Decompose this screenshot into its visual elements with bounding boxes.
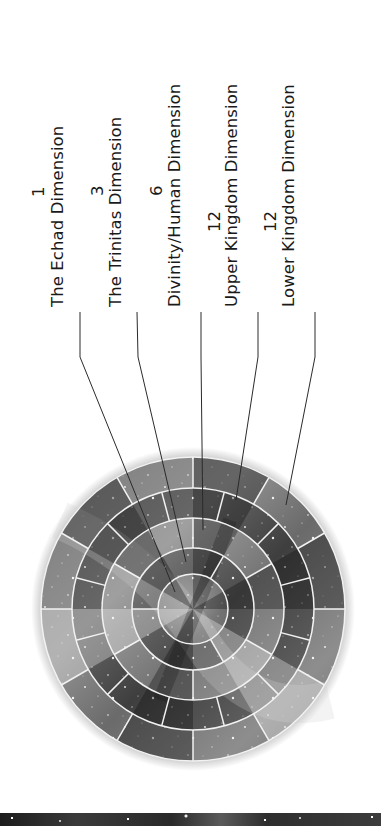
label-count-lower-kingdom: 12 [263,211,280,232]
leader-line-lower-kingdom [286,312,315,505]
label-name-upper-kingdom: Upper Kingdom Dimension [224,84,241,307]
label-name-echad: The Echad Dimension [50,126,67,307]
label-name-divinity-human: Divinity/Human Dimension [167,84,184,307]
starfield-strip-stars [0,813,381,826]
label-count-divinity-human: 6 [149,186,166,197]
label-count-echad: 1 [31,187,48,198]
label-name-trinitas: The Trinitas Dimension [108,117,125,307]
label-name-lower-kingdom: Lower Kingdom Dimension [281,84,298,307]
concentric-dimensions-diagram [0,0,381,826]
label-count-trinitas: 3 [90,186,107,197]
